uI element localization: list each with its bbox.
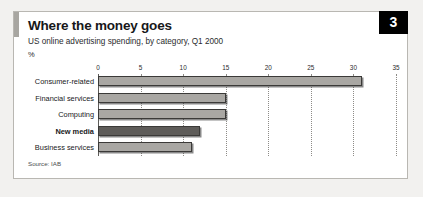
gridline-15 bbox=[226, 74, 228, 156]
x-axis-tick-label: 15 bbox=[222, 64, 229, 71]
category-label: Business services bbox=[35, 143, 94, 152]
x-axis-tick-label: 35 bbox=[392, 64, 399, 71]
gridline-35 bbox=[396, 74, 398, 156]
category-label: Consumer-related bbox=[35, 77, 94, 86]
accent-bar bbox=[14, 12, 19, 37]
x-axis-tick-label: 20 bbox=[265, 64, 272, 71]
bar-business-services bbox=[98, 142, 192, 152]
gridline-30 bbox=[353, 74, 355, 156]
category-label: Computing bbox=[58, 110, 94, 119]
gridline-20 bbox=[268, 74, 270, 156]
axis-unit-label: % bbox=[28, 50, 35, 59]
category-label: New media bbox=[55, 127, 94, 136]
bar-computing bbox=[98, 109, 226, 119]
x-axis-tick-label: 5 bbox=[139, 64, 143, 71]
page-title: Where the money goes bbox=[28, 18, 172, 33]
figure-number-badge: 3 bbox=[379, 11, 408, 34]
bar-financial-services bbox=[98, 93, 226, 103]
x-axis-tick-label: 0 bbox=[96, 64, 100, 71]
x-axis-tick-label: 25 bbox=[307, 64, 314, 71]
chart-subtitle: US online advertising spending, by categ… bbox=[28, 37, 223, 46]
bar-new-media bbox=[98, 126, 200, 136]
source-note: Source: IAB bbox=[28, 160, 61, 167]
chart-panel: 3 Where the money goes US online adverti… bbox=[13, 11, 408, 179]
x-axis-tick-label: 10 bbox=[180, 64, 187, 71]
gridline-25 bbox=[311, 74, 313, 156]
x-axis-tick-label: 30 bbox=[350, 64, 357, 71]
bar-consumer-related bbox=[98, 76, 362, 86]
chart-screenshot: 3 Where the money goes US online adverti… bbox=[0, 0, 423, 197]
plot-area: 05101520253035 bbox=[98, 64, 396, 156]
category-labels: Consumer-relatedFinancial servicesComput… bbox=[28, 64, 94, 156]
category-label: Financial services bbox=[35, 94, 94, 103]
